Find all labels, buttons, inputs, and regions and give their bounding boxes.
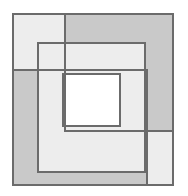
inner-white-square	[63, 74, 120, 126]
overlapping-squares-diagram: Overlapping squares geometric figure	[0, 0, 188, 196]
figure-canvas: Overlapping squares geometric figure	[0, 0, 188, 196]
